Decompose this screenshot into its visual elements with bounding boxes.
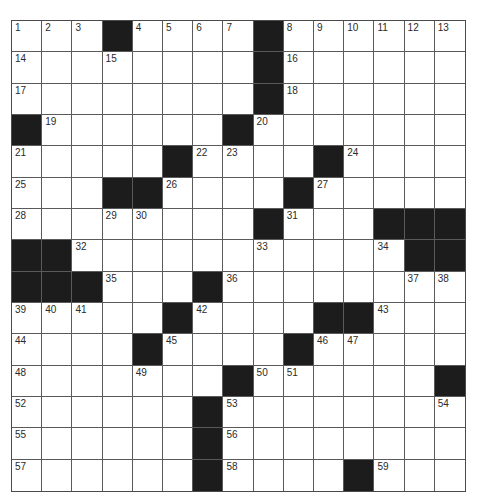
grid-cell[interactable] xyxy=(42,366,72,397)
grid-cell[interactable] xyxy=(254,178,284,209)
grid-cell[interactable] xyxy=(72,146,102,177)
grid-cell[interactable] xyxy=(344,115,374,146)
grid-cell[interactable]: 40 xyxy=(42,303,72,334)
grid-cell[interactable] xyxy=(72,115,102,146)
grid-cell[interactable]: 19 xyxy=(42,115,72,146)
grid-cell[interactable] xyxy=(254,428,284,459)
grid-cell[interactable]: 56 xyxy=(223,428,253,459)
grid-cell[interactable] xyxy=(103,84,133,115)
grid-cell[interactable]: 25 xyxy=(12,178,42,209)
grid-cell[interactable] xyxy=(133,84,163,115)
grid-cell[interactable] xyxy=(405,334,435,365)
grid-cell[interactable] xyxy=(374,272,404,303)
grid-cell[interactable]: 14 xyxy=(12,52,42,83)
grid-cell[interactable] xyxy=(103,146,133,177)
grid-cell[interactable] xyxy=(284,303,314,334)
grid-cell[interactable]: 16 xyxy=(284,52,314,83)
grid-cell[interactable] xyxy=(254,272,284,303)
grid-cell[interactable] xyxy=(72,366,102,397)
grid-cell[interactable]: 54 xyxy=(435,397,465,428)
grid-cell[interactable] xyxy=(42,178,72,209)
grid-cell[interactable] xyxy=(435,334,465,365)
grid-cell[interactable] xyxy=(374,334,404,365)
grid-cell[interactable] xyxy=(284,146,314,177)
grid-cell[interactable]: 59 xyxy=(374,460,404,491)
grid-cell[interactable] xyxy=(344,272,374,303)
grid-cell[interactable] xyxy=(42,209,72,240)
grid-cell[interactable] xyxy=(103,460,133,491)
grid-cell[interactable] xyxy=(133,303,163,334)
grid-cell[interactable] xyxy=(163,397,193,428)
grid-cell[interactable] xyxy=(103,397,133,428)
grid-cell[interactable] xyxy=(374,84,404,115)
grid-cell[interactable]: 50 xyxy=(254,366,284,397)
grid-cell[interactable] xyxy=(344,178,374,209)
grid-cell[interactable] xyxy=(72,209,102,240)
grid-cell[interactable] xyxy=(405,303,435,334)
grid-cell[interactable] xyxy=(193,209,223,240)
grid-cell[interactable]: 37 xyxy=(405,272,435,303)
grid-cell[interactable] xyxy=(405,460,435,491)
grid-cell[interactable] xyxy=(223,84,253,115)
grid-cell[interactable] xyxy=(344,52,374,83)
grid-cell[interactable] xyxy=(163,272,193,303)
grid-cell[interactable] xyxy=(163,209,193,240)
grid-cell[interactable] xyxy=(374,397,404,428)
grid-cell[interactable] xyxy=(193,334,223,365)
grid-cell[interactable] xyxy=(405,115,435,146)
grid-cell[interactable]: 33 xyxy=(254,240,284,271)
grid-cell[interactable]: 29 xyxy=(103,209,133,240)
grid-cell[interactable] xyxy=(314,209,344,240)
grid-cell[interactable]: 20 xyxy=(254,115,284,146)
grid-cell[interactable] xyxy=(314,460,344,491)
grid-cell[interactable] xyxy=(133,460,163,491)
grid-cell[interactable] xyxy=(405,84,435,115)
grid-cell[interactable] xyxy=(314,52,344,83)
grid-cell[interactable] xyxy=(163,366,193,397)
grid-cell[interactable] xyxy=(344,428,374,459)
grid-cell[interactable]: 57 xyxy=(12,460,42,491)
grid-cell[interactable] xyxy=(103,334,133,365)
grid-cell[interactable] xyxy=(254,460,284,491)
grid-cell[interactable] xyxy=(133,146,163,177)
grid-cell[interactable] xyxy=(163,52,193,83)
grid-cell[interactable] xyxy=(133,240,163,271)
grid-cell[interactable] xyxy=(284,460,314,491)
grid-cell[interactable] xyxy=(133,428,163,459)
grid-cell[interactable] xyxy=(42,460,72,491)
grid-cell[interactable] xyxy=(374,428,404,459)
grid-cell[interactable]: 21 xyxy=(12,146,42,177)
grid-cell[interactable]: 5 xyxy=(163,21,193,52)
grid-cell[interactable] xyxy=(223,178,253,209)
grid-cell[interactable] xyxy=(193,178,223,209)
grid-cell[interactable]: 17 xyxy=(12,84,42,115)
grid-cell[interactable] xyxy=(223,334,253,365)
grid-cell[interactable] xyxy=(103,115,133,146)
grid-cell[interactable] xyxy=(72,397,102,428)
grid-cell[interactable] xyxy=(284,115,314,146)
grid-cell[interactable]: 2 xyxy=(42,21,72,52)
grid-cell[interactable] xyxy=(435,115,465,146)
grid-cell[interactable] xyxy=(344,84,374,115)
grid-cell[interactable] xyxy=(193,240,223,271)
grid-cell[interactable] xyxy=(435,303,465,334)
grid-cell[interactable] xyxy=(163,460,193,491)
grid-cell[interactable] xyxy=(193,115,223,146)
grid-cell[interactable]: 7 xyxy=(223,21,253,52)
grid-cell[interactable] xyxy=(133,272,163,303)
grid-cell[interactable]: 24 xyxy=(344,146,374,177)
grid-cell[interactable] xyxy=(374,146,404,177)
grid-cell[interactable] xyxy=(72,428,102,459)
grid-cell[interactable]: 49 xyxy=(133,366,163,397)
grid-cell[interactable] xyxy=(374,52,404,83)
grid-cell[interactable] xyxy=(223,209,253,240)
grid-cell[interactable]: 48 xyxy=(12,366,42,397)
grid-cell[interactable] xyxy=(435,52,465,83)
grid-cell[interactable] xyxy=(163,240,193,271)
grid-cell[interactable] xyxy=(72,52,102,83)
grid-cell[interactable] xyxy=(405,52,435,83)
grid-cell[interactable]: 18 xyxy=(284,84,314,115)
grid-cell[interactable] xyxy=(223,303,253,334)
grid-cell[interactable] xyxy=(374,115,404,146)
grid-cell[interactable]: 8 xyxy=(284,21,314,52)
